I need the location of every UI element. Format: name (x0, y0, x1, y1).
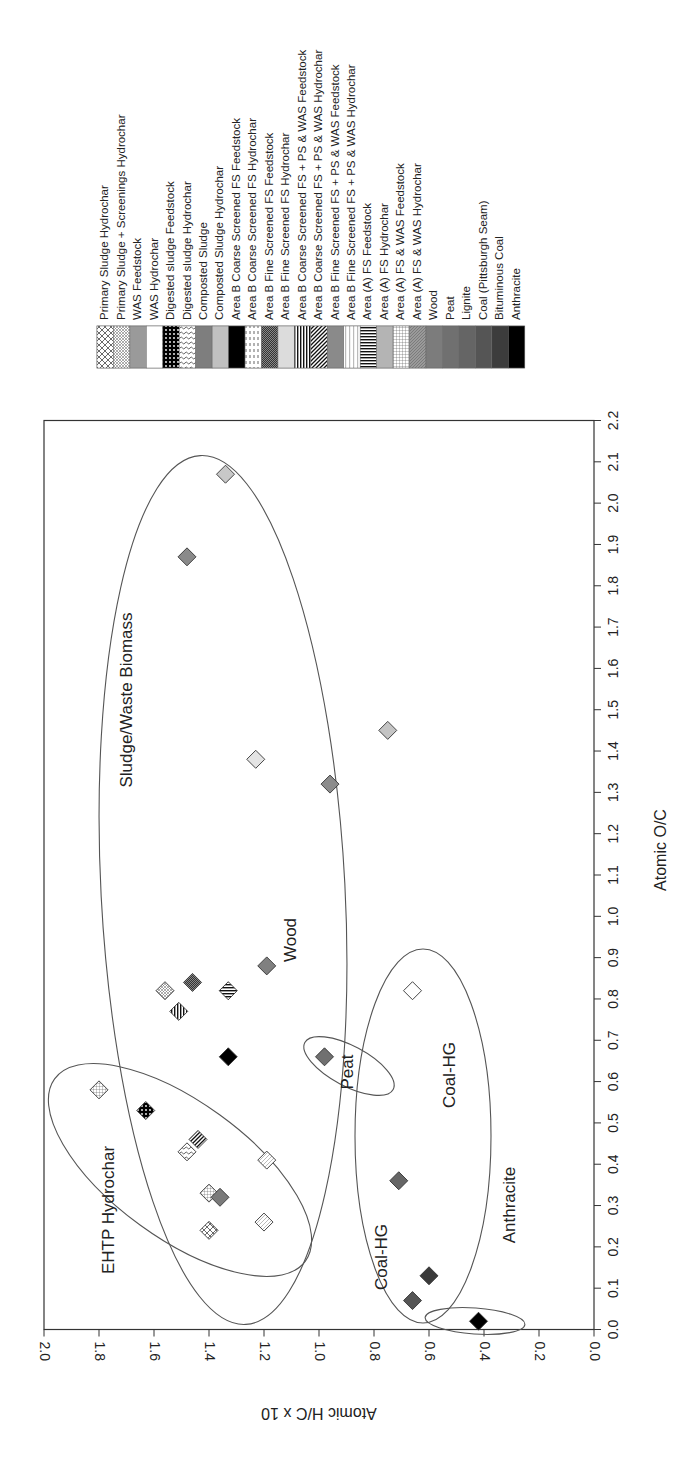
legend-label: Area (A) FS Hydrochar (378, 203, 390, 320)
legend-label: Area B Coarse Screened FS + PS & WAS Hyd… (312, 50, 324, 320)
y-tick-label: 2.1 (605, 452, 621, 472)
legend-label: Area (A) FS & WAS Hydrochar (411, 163, 423, 320)
legend-swatch (492, 326, 508, 368)
legend-swatch (146, 326, 162, 368)
legend-swatch (459, 326, 475, 368)
legend-label: Area B Coarse Screened FS + PS & WAS Fee… (296, 49, 308, 320)
data-point (178, 1143, 196, 1161)
x-tick-label: 1.6 (147, 1342, 163, 1362)
y-tick-label: 1.6 (605, 658, 621, 678)
y-tick-label: 0.2 (605, 1237, 621, 1257)
legend-label: Digested sludge Hydrochar (181, 181, 193, 320)
legend-swatch (393, 326, 409, 368)
legend-swatch (130, 326, 146, 368)
legend-label: Primary Sludge Hydrochar (98, 185, 110, 320)
legend-swatch (475, 326, 491, 368)
data-point (200, 1221, 218, 1239)
legend-label: Digested sludge Feedstock (164, 181, 176, 320)
legend-swatch (229, 326, 245, 368)
x-tick-label: 1.4 (202, 1342, 218, 1362)
legend-label: Area B Fine Screened FS Hydrochar (279, 133, 291, 320)
region-label: Wood (281, 918, 300, 962)
y-tick-label: 1.8 (605, 576, 621, 596)
y-tick-label: 0.5 (605, 1113, 621, 1133)
y-tick-label: 0.4 (605, 1154, 621, 1174)
data-point (316, 1048, 334, 1066)
data-point (258, 957, 276, 975)
legend-swatch (196, 326, 212, 368)
data-point (137, 1102, 155, 1120)
legend-swatch (278, 326, 294, 368)
legend-label: Area (A) FS & WAS Feedstock (394, 163, 406, 320)
x-tick-label: 0.0 (587, 1342, 603, 1362)
x-tick-label: 0.4 (477, 1342, 493, 1362)
region-label: Coal-HG (440, 1042, 459, 1108)
y-tick-label: 2.2 (605, 411, 621, 431)
x-tick-label: 0.2 (532, 1342, 548, 1362)
y-tick-label: 1.7 (605, 617, 621, 637)
legend: Primary Sludge HydrocharPrimary Sludge +… (97, 49, 525, 368)
chart-svg: Primary Sludge HydrocharPrimary Sludge +… (0, 0, 693, 1474)
legend-swatch (262, 326, 278, 368)
data-point (219, 1048, 237, 1066)
x-tick-label: 1.2 (257, 1342, 273, 1362)
data-point (189, 1130, 207, 1148)
data-point (420, 1267, 438, 1285)
y-tick-label: 0.0 (605, 1320, 621, 1340)
data-point (390, 1172, 408, 1190)
legend-label: Area B Coarse Screened FS Feedstock (230, 118, 242, 320)
data-point (178, 548, 196, 566)
legend-swatch (97, 326, 113, 368)
legend-swatch (311, 326, 327, 368)
y-tick-label: 2.0 (605, 493, 621, 513)
data-point (379, 721, 397, 739)
region-label: EHTP Hydrochar (99, 1146, 118, 1275)
x-tick-label: 0.6 (422, 1342, 438, 1362)
data-point (470, 1312, 488, 1330)
x-tick-label: 2.0 (37, 1342, 53, 1362)
x-tick-label: 1.0 (312, 1342, 328, 1362)
legend-label: Area B Fine Screened FS + PS & WAS Feeds… (329, 64, 341, 320)
data-point (156, 982, 174, 1000)
x-tick-label: 0.8 (367, 1342, 383, 1362)
y-tick-label: 1.9 (605, 535, 621, 555)
legend-label: Area B Coarse Screened FS Hydrochar (246, 118, 258, 320)
legend-label: Composted Sludge Hydrochar (213, 166, 225, 320)
data-point (255, 1213, 273, 1231)
legend-swatch (360, 326, 376, 368)
y-tick-label: 0.8 (605, 989, 621, 1009)
legend-swatch (377, 326, 393, 368)
y-tick-label: 1.0 (605, 906, 621, 926)
legend-swatch (113, 326, 129, 368)
region-label: Coal-HG (372, 1224, 391, 1290)
chart-figure: Primary Sludge HydrocharPrimary Sludge +… (0, 0, 693, 1474)
y-tick-label: 1.3 (605, 782, 621, 802)
y-tick-label: 1.4 (605, 741, 621, 761)
data-point (184, 973, 202, 991)
legend-label: Anthracite (510, 268, 522, 320)
legend-swatch (508, 326, 524, 368)
legend-label: Coal (Pittsburgh Seam) (477, 200, 489, 320)
y-tick-label: 0.1 (605, 1278, 621, 1298)
legend-label: Wood (427, 290, 439, 320)
legend-label: Area (A) FS Feedstock (361, 203, 373, 320)
y-tick-label: 1.5 (605, 700, 621, 720)
legend-swatch (212, 326, 228, 368)
data-point (90, 1081, 108, 1099)
region-label: Peat (338, 1054, 357, 1089)
legend-label: Peat (444, 296, 456, 320)
y-tick-label: 0.7 (605, 1030, 621, 1050)
legend-swatch (294, 326, 310, 368)
legend-swatch (163, 326, 179, 368)
legend-label: Lignite (460, 286, 472, 320)
y-tick-label: 0.9 (605, 948, 621, 968)
y-axis-title: Atomic O/C (652, 809, 669, 891)
plot-area: 0.00.20.40.60.81.01.21.41.61.82.00.00.10… (15, 411, 670, 1422)
y-tick-label: 0.6 (605, 1072, 621, 1092)
region-label: Anthracite (500, 1167, 519, 1244)
legend-label: WAS Feedstock (131, 238, 143, 320)
legend-swatch (245, 326, 261, 368)
legend-label: Bituminous Coal (493, 236, 505, 320)
legend-label: WAS Hydrochar (148, 238, 160, 320)
data-point (247, 750, 265, 768)
